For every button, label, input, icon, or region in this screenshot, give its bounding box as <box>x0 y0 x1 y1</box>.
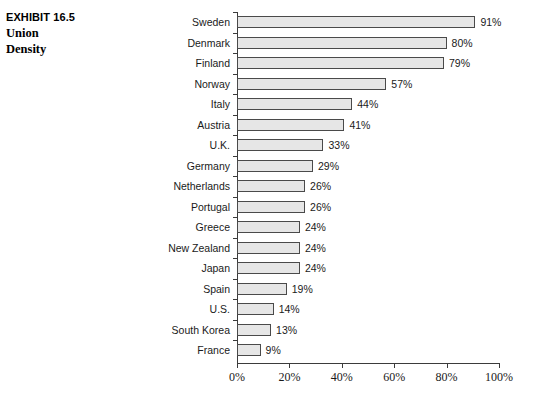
bar <box>237 78 386 90</box>
category-axis-tick <box>233 320 237 321</box>
bar-row: New Zealand24% <box>237 238 499 259</box>
bar-value-label: 13% <box>276 324 297 336</box>
bar-value-label: 14% <box>279 303 300 315</box>
category-label: Japan <box>201 262 230 274</box>
bar <box>237 303 274 315</box>
bar <box>237 242 300 254</box>
category-axis-tick <box>233 156 237 157</box>
category-axis-tick <box>233 197 237 198</box>
value-axis-tick <box>447 363 448 368</box>
value-axis-tick <box>394 363 395 368</box>
bar-row: U.K.33% <box>237 135 499 156</box>
value-axis-tick <box>342 363 343 368</box>
bar-row: Spain19% <box>237 279 499 300</box>
category-axis-tick <box>233 53 237 54</box>
bar-row: France9% <box>237 340 499 361</box>
bar-row: Netherlands26% <box>237 176 499 197</box>
bar-row: Denmark80% <box>237 33 499 54</box>
bar-row: South Korea13% <box>237 320 499 341</box>
category-axis-tick <box>233 74 237 75</box>
bar-row: Austria41% <box>237 115 499 136</box>
bar-row: U.S.14% <box>237 299 499 320</box>
bar <box>237 16 475 28</box>
bar <box>237 262 300 274</box>
bar <box>237 283 287 295</box>
category-axis-tick <box>233 135 237 136</box>
bar-value-label: 24% <box>305 242 326 254</box>
category-axis-tick <box>233 217 237 218</box>
category-axis-tick <box>233 33 237 34</box>
category-label: Sweden <box>192 16 230 28</box>
bar <box>237 119 344 131</box>
category-label: Austria <box>197 119 230 131</box>
bar-row: Finland79% <box>237 53 499 74</box>
value-axis-tick <box>499 363 500 368</box>
bar-row: Germany29% <box>237 156 499 177</box>
union-density-bar-chart: Sweden91%Denmark80%Finland79%Norway57%It… <box>0 0 536 412</box>
plot-area: Sweden91%Denmark80%Finland79%Norway57%It… <box>237 12 499 363</box>
bar <box>237 37 447 49</box>
category-label: Germany <box>187 160 230 172</box>
bar-value-label: 29% <box>318 160 339 172</box>
value-axis-tick-label: 20% <box>278 370 300 385</box>
category-label: Italy <box>211 98 230 110</box>
bar <box>237 201 305 213</box>
value-axis-tick-label: 40% <box>331 370 353 385</box>
bar-value-label: 79% <box>449 57 470 69</box>
category-label: Spain <box>203 283 230 295</box>
bar-value-label: 33% <box>328 139 349 151</box>
value-axis-tick-label: 80% <box>436 370 458 385</box>
bar <box>237 57 444 69</box>
bar-row: Portugal26% <box>237 197 499 218</box>
value-axis-tick-label: 60% <box>383 370 405 385</box>
bar-value-label: 26% <box>310 180 331 192</box>
category-axis-tick <box>233 12 237 13</box>
bar-value-label: 80% <box>452 37 473 49</box>
category-axis-tick <box>233 279 237 280</box>
bar-value-label: 24% <box>305 262 326 274</box>
category-axis-tick <box>233 115 237 116</box>
category-label: Portugal <box>191 201 230 213</box>
category-axis-tick <box>233 238 237 239</box>
bar-row: Italy44% <box>237 94 499 115</box>
bar <box>237 324 271 336</box>
bar-row: Greece24% <box>237 217 499 238</box>
bar-row: Japan24% <box>237 258 499 279</box>
value-axis-tick <box>237 363 238 368</box>
bar-value-label: 91% <box>480 16 501 28</box>
value-axis-tick-label: 0% <box>229 370 245 385</box>
category-axis-tick <box>233 176 237 177</box>
category-label: U.K. <box>210 139 230 151</box>
bar-row: Norway57% <box>237 74 499 95</box>
bar-value-label: 24% <box>305 221 326 233</box>
bar <box>237 221 300 233</box>
category-axis-tick <box>233 258 237 259</box>
bar-value-label: 57% <box>391 78 412 90</box>
bar-row: Sweden91% <box>237 12 499 33</box>
bar-value-label: 9% <box>266 344 281 356</box>
category-label: Greece <box>196 221 230 233</box>
bar-value-label: 19% <box>292 283 313 295</box>
value-axis-tick-label: 100% <box>485 370 513 385</box>
category-label: South Korea <box>172 324 230 336</box>
bar <box>237 160 313 172</box>
bar-value-label: 41% <box>349 119 370 131</box>
category-axis-tick <box>233 340 237 341</box>
value-axis-tick <box>289 363 290 368</box>
value-axis-line <box>237 363 499 364</box>
bar <box>237 180 305 192</box>
category-axis-tick <box>233 94 237 95</box>
category-label: Netherlands <box>173 180 230 192</box>
category-label: Denmark <box>187 37 230 49</box>
bar-value-label: 26% <box>310 201 331 213</box>
category-axis-tick <box>233 299 237 300</box>
category-label: France <box>197 344 230 356</box>
bar <box>237 139 323 151</box>
bar-value-label: 44% <box>357 98 378 110</box>
category-label: Norway <box>194 78 230 90</box>
category-label: U.S. <box>210 303 230 315</box>
bar <box>237 344 261 356</box>
bar <box>237 98 352 110</box>
category-label: Finland <box>196 57 230 69</box>
category-label: New Zealand <box>168 242 230 254</box>
